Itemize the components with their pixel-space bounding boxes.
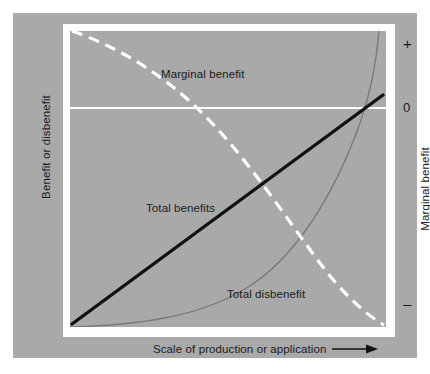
y-axis-right-tick-plus: + [403, 36, 412, 51]
y-axis-right-tick-zero: 0 [403, 101, 410, 114]
y-axis-left-title: Benefit or disbenefit [40, 67, 52, 227]
y-axis-right-tick-minus: – [403, 296, 411, 311]
annotation-total-disbenefit: Total disbenefit [227, 288, 305, 300]
annotation-marginal-benefit: Marginal benefit [161, 68, 244, 80]
right-arrow-icon [332, 343, 378, 355]
plot-area: Marginal benefit Total benefits Total di… [70, 31, 386, 327]
y-axis-right-title: Marginal benefit [419, 109, 430, 269]
x-axis-title: Scale of production or application [153, 343, 326, 355]
annotation-total-benefits: Total benefits [146, 202, 215, 214]
chart-figure: Marginal benefit Total benefits Total di… [0, 0, 430, 374]
x-axis-title-group: Scale of production or application [153, 343, 378, 355]
figure-panel: Marginal benefit Total benefits Total di… [13, 13, 417, 358]
